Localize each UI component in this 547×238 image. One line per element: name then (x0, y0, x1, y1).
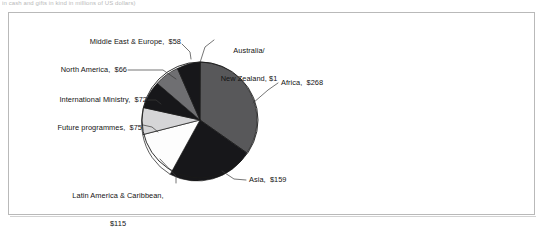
pie-label-latin-america-caribbean: Latin America & Caribbean, $115 (60, 172, 176, 238)
pie-label-north-america: North America, $66 (34, 65, 127, 74)
pie-label-asia: Asia, $159 (249, 175, 287, 184)
pie-label-middle-east-europe: Middle East & Europe, $58 (62, 37, 181, 46)
pie-label-international-ministry: International Ministry, $72 (28, 95, 147, 104)
pie-label-latin-america-caribbean-line2: $115 (60, 219, 176, 228)
pie-label-australia-new-zealand-line2: New Zealand, $1 (206, 74, 292, 83)
leader-line-middle-east-europe (182, 44, 191, 59)
pie-chart: Australia/ New Zealand, $1 Africa, $268 … (0, 0, 547, 238)
pie-label-africa: Africa, $268 (281, 78, 323, 87)
pie-label-australia-new-zealand: Australia/ New Zealand, $1 (206, 27, 292, 102)
pie-label-future-programmes: Future programmes, $75 (34, 123, 142, 132)
pie-label-latin-america-caribbean-line1: Latin America & Caribbean, (60, 191, 176, 200)
pie-label-australia-new-zealand-line1: Australia/ (206, 46, 292, 55)
